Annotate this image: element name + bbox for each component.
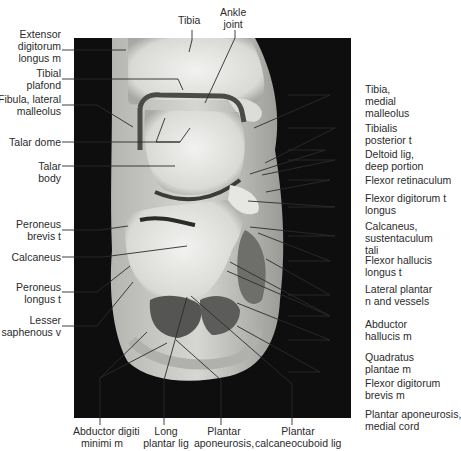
label-lateral-plantar: Lateral plantar n and vessels: [365, 283, 432, 307]
label-tibialis-posterior: Tibialis posterior t: [365, 122, 412, 146]
label-flexor-retinaculum: Flexor retinaculum: [365, 174, 451, 186]
label-calcaneus: Calcaneus: [11, 251, 61, 263]
label-flexor-digitorum-brevis: Flexor digitorum brevis m: [365, 377, 440, 401]
label-quadratus-plantae: Quadratus plantae m: [365, 351, 414, 375]
label-tibia: Tibia: [178, 14, 200, 26]
talus-shape: [144, 110, 244, 195]
label-lesser-saphenous: Lesser saphenous v: [1, 314, 61, 338]
label-extensor-digitorum-longus: Extensor digitorum longus m: [18, 28, 61, 64]
label-fibula-lateral-malleolus: Fibula, lateral malleolus: [0, 93, 61, 117]
label-plantar-aponeurosis: Plantar aponeurosis,: [193, 425, 255, 449]
label-peroneus-longus: Peroneus longus t: [16, 281, 61, 305]
label-abductor-hallucis: Abductor hallucis m: [365, 318, 412, 342]
label-flexor-hallucis-longus: Flexor hallucis longus t: [365, 254, 432, 278]
label-flexor-digitorum-longus: Flexor digitorum t longus: [365, 192, 446, 216]
label-talar-body: Talar body: [38, 160, 61, 184]
label-plantar-aponeurosis-medial: Plantar aponeurosis, medial cord: [365, 408, 461, 432]
label-plantar-calcaneocuboid: Plantar calcaneocuboid lig: [255, 425, 341, 449]
label-tibial-plafond: Tibial plafond: [27, 67, 61, 91]
label-long-plantar-lig: Long plantar lig: [137, 425, 195, 449]
label-deltoid-lig: Deltoid lig, deep portion: [365, 148, 423, 172]
label-abductor-digiti-minimi: Abductor digiti minimi m: [73, 425, 131, 449]
label-ankle-joint: Ankle joint: [220, 6, 246, 30]
label-talar-dome: Talar dome: [9, 136, 61, 148]
label-calcaneus-sustentaculum: Calcaneus, sustentaculum tali: [365, 220, 433, 256]
label-tibia-medial-malleolus: Tibia, medial malleolus: [365, 83, 409, 119]
label-peroneus-brevis: Peroneus brevis t: [16, 218, 61, 242]
